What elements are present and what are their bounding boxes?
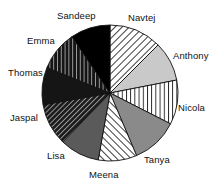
pie-slice-label-jaspal: Jaspal [10,113,38,123]
pie-slice-label-emma: Emma [27,36,55,46]
pie-slice-label-thomas: Thomas [8,68,43,78]
pie-slice-label-meena: Meena [89,170,119,180]
pie-slice-label-lisa: Lisa [47,151,65,161]
pie-chart-svg [0,0,218,185]
pie-chart: NavtejAnthonyNicolaTanyaMeenaLisaJaspalT… [0,0,218,185]
pie-slice-group [42,25,178,161]
pie-slice-label-nicola: Nicola [178,103,205,113]
pie-slice-label-anthony: Anthony [173,51,209,61]
pie-slice-label-sandeep: Sandeep [57,11,96,21]
pie-slice-label-navtej: Navtej [128,13,156,23]
pie-slice-label-tanya: Tanya [144,155,170,165]
